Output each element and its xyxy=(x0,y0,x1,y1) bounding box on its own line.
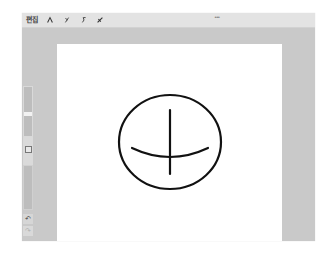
eraser-tool-button[interactable] xyxy=(94,14,106,26)
drawing-canvas[interactable] xyxy=(57,44,282,241)
top-toolbar: 편집 ••• xyxy=(22,13,315,28)
pen-tool-button[interactable] xyxy=(44,14,56,26)
lasso-icon xyxy=(80,16,88,24)
brush-size-handle[interactable] xyxy=(24,112,32,116)
pen-icon xyxy=(46,16,54,24)
eraser-icon xyxy=(96,16,104,24)
drawing-app-window: 편집 ••• xyxy=(22,13,315,241)
redo-button[interactable]: ↷ xyxy=(23,226,33,236)
redo-icon: ↷ xyxy=(25,227,31,235)
color-swatch-icon xyxy=(25,146,32,153)
opacity-slider[interactable] xyxy=(23,165,33,210)
lasso-tool-button[interactable] xyxy=(78,14,90,26)
pencil-tool-button[interactable] xyxy=(61,14,73,26)
color-picker-button[interactable] xyxy=(23,137,33,165)
pencil-icon xyxy=(63,16,71,24)
undo-button[interactable]: ↶ xyxy=(23,214,33,224)
more-options-handle[interactable]: ••• xyxy=(212,15,222,20)
undo-icon: ↶ xyxy=(25,215,31,223)
drawing-layer xyxy=(57,44,282,241)
edit-menu-label[interactable]: 편집 xyxy=(26,15,37,25)
left-sidebar: ↶ ↷ xyxy=(23,86,33,228)
brush-size-slider[interactable] xyxy=(23,86,33,137)
